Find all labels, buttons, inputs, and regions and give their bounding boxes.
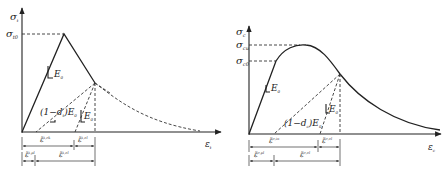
softening-tail (95, 83, 200, 131)
elastic-strain-label: ε̃c,el (300, 151, 310, 159)
stress-level-label: σt0 (6, 28, 19, 40)
unload-modulus-label: E0 (83, 111, 94, 122)
plastic-strain-label: ε̃t,pl (25, 151, 35, 159)
stress-strain-figure: σt σt0 E0 (1−dt)E0 E0 εt ε̃t,ck (0, 0, 446, 178)
modulus-label: E0 (270, 83, 281, 94)
elastic-strain-label: ε̃t,el (78, 136, 88, 144)
ultimate-stress-label: σcu (236, 39, 249, 51)
elastic-strain-label: ε̃t,el (59, 151, 69, 159)
x-axis-label: εc (428, 142, 436, 153)
y-axis-label: σc (236, 26, 246, 38)
dimension-row-2: ε̃c,pl ε̃c,el (249, 151, 339, 166)
unload-modulus-label: E0 (328, 104, 339, 115)
x-axis-label: εt (205, 139, 212, 150)
compression-panel: σc σcu σc0 E0 (1−dc)E0 E0 εc ε̃c,in ε̃c,… (236, 26, 441, 166)
slope-triangle-icon (48, 66, 53, 78)
yield-stress-label: σc0 (236, 55, 250, 67)
dimension-row-2: ε̃t,pl ε̃t,el (22, 151, 94, 166)
plastic-strain-label: ε̃c,pl (254, 151, 264, 159)
y-axis-label: σt (10, 11, 19, 23)
damaged-modulus-label: (1−dt)E0 (40, 107, 77, 118)
elastic-strain-label: ε̃c,el (322, 137, 332, 145)
extension-dashed (95, 83, 110, 93)
tension-panel: σt σt0 E0 (1−dt)E0 E0 εt ε̃t,ck (6, 8, 221, 166)
cracking-strain-label: ε̃t,ck (40, 136, 50, 144)
modulus-label: E0 (53, 69, 64, 80)
inelastic-strain-label: ε̃c,in (269, 137, 280, 145)
damaged-modulus-label: (1−dc)E0 (284, 118, 322, 129)
elastic-unloading-line (75, 83, 95, 132)
